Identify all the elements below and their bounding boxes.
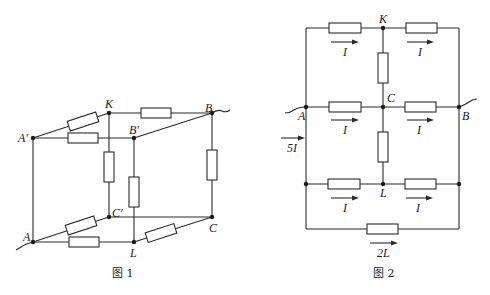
figure-1-caption: 图 1 [112, 267, 134, 280]
figure-1-cube: A′ K B B′ C′ C A L 图 1 [16, 97, 230, 280]
node-cprime [107, 215, 111, 219]
figure-2-planar: I I I I I I 2L 5I K C A B L 图 2 [281, 12, 477, 280]
resistor-bprime-l [129, 177, 139, 207]
current-label-input: 5I [287, 141, 298, 155]
current-arrow-top-right [407, 40, 434, 45]
label-l: L [129, 246, 137, 260]
current-arrow-mid-right [407, 118, 434, 123]
label-aprime: A′ [17, 131, 28, 145]
current-label-mid-right: I [416, 123, 422, 137]
resistor-k-cprime [104, 152, 114, 182]
label-c2: C [387, 91, 396, 105]
resistor-l-c [145, 224, 177, 243]
label-cprime: C′ [112, 206, 123, 220]
resistor-mid-right [405, 102, 436, 112]
resistor-bottom [367, 224, 398, 234]
label-a2: A [297, 109, 306, 123]
node-b2 [457, 105, 461, 109]
current-label-bottom: 2L [377, 246, 390, 260]
node-k2 [381, 26, 385, 30]
resistor-k-c [378, 53, 388, 83]
node-low-left [304, 182, 308, 186]
label-a: A [22, 230, 31, 244]
node-k [107, 111, 111, 115]
node-l [132, 240, 136, 244]
current-label-top-left: I [342, 45, 348, 59]
resistor-aprime-k [67, 112, 99, 131]
current-label-low-left: I [342, 201, 348, 215]
node-a [31, 240, 35, 244]
current-label-top-right: I [417, 45, 423, 59]
resistor-top-left [329, 23, 361, 33]
label-l2: L [379, 186, 387, 200]
current-label-mid-left: I [342, 123, 348, 137]
resistor-c-l [378, 132, 388, 162]
label-bprime: B′ [129, 123, 139, 137]
current-arrow-low-left [331, 196, 359, 201]
current-arrow-top-left [331, 40, 359, 45]
resistor-b-c [207, 150, 217, 180]
current-label-low-right: I [415, 201, 421, 215]
label-k: K [104, 97, 114, 111]
current-arrow-bottom [370, 241, 398, 246]
lead-wire-b2 [459, 99, 477, 107]
resistor-low-right [405, 179, 436, 189]
resistor-low-left [328, 179, 360, 189]
resistor-top-right [406, 23, 437, 33]
current-arrow-input [281, 136, 305, 141]
resistor-a-l [69, 237, 99, 247]
node-low-right [457, 182, 461, 186]
label-b: B [205, 101, 213, 115]
circuit-figures: A′ K B B′ C′ C A L 图 1 [0, 0, 490, 295]
label-k2: K [378, 12, 388, 26]
current-arrow-low-right [406, 196, 433, 201]
lead-wire-b [212, 110, 230, 113]
node-c2 [381, 105, 385, 109]
resistor-mid-left [329, 102, 361, 112]
label-b2: B [462, 109, 470, 123]
resistor-a-cprime [65, 216, 97, 235]
node-aprime [31, 136, 35, 140]
node-c [210, 215, 214, 219]
resistor-aprime-bprime [68, 133, 98, 143]
figure-2-caption: 图 2 [373, 267, 395, 280]
current-arrow-mid-left [331, 118, 359, 123]
resistor-k-b [141, 108, 171, 118]
label-c: C [209, 221, 218, 235]
